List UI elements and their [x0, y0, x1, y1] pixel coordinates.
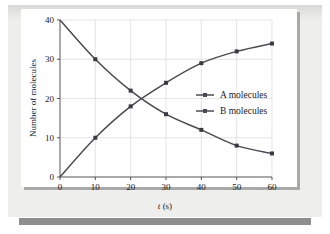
- series-2-marker: [199, 61, 203, 65]
- y-tick-label: 0: [50, 172, 55, 182]
- series-2-marker: [235, 49, 239, 53]
- x-tick-label: 50: [232, 182, 242, 192]
- x-axis-title: t (s): [158, 201, 172, 211]
- y-tick-label: 30: [45, 54, 55, 64]
- x-tick-label: 60: [268, 182, 278, 192]
- y-axis-title: Number of molecules: [28, 59, 38, 137]
- x-tick-label: 30: [162, 182, 172, 192]
- chart-legend: A moleculesB molecules: [196, 90, 268, 116]
- series-2-marker: [129, 104, 133, 108]
- series-1-marker: [129, 89, 133, 93]
- y-tick-labels: 010203040: [45, 15, 55, 182]
- series-1-marker: [93, 57, 97, 61]
- series-1-marker: [199, 128, 203, 132]
- series-1-marker: [235, 144, 239, 148]
- legend-marker-1: [203, 93, 207, 97]
- x-tick-label: 0: [58, 182, 63, 192]
- x-tick-label: 10: [91, 182, 101, 192]
- y-tick-label: 10: [45, 133, 55, 143]
- x-tick-label: 40: [197, 182, 207, 192]
- x-tick-labels: 0102030405060: [58, 182, 277, 192]
- y-tick-label: 20: [45, 94, 55, 104]
- series-1-marker: [164, 112, 168, 116]
- svg-text:Number of molecules: Number of molecules: [28, 59, 38, 137]
- svg-text:t (s): t (s): [158, 201, 172, 211]
- series-1-marker: [270, 151, 274, 155]
- legend-label-1: A molecules: [220, 90, 268, 100]
- y-tick-label: 40: [45, 15, 55, 25]
- series-2-marker: [270, 42, 274, 46]
- chart-svg: 0102030405060 010203040 t (s) Number of …: [0, 0, 330, 234]
- x-tick-label: 20: [126, 182, 136, 192]
- series-2-marker: [93, 136, 97, 140]
- series-2-marker: [164, 81, 168, 85]
- legend-label-2: B molecules: [220, 106, 268, 116]
- legend-marker-2: [203, 109, 207, 113]
- figure-container: 0102030405060 010203040 t (s) Number of …: [0, 0, 330, 234]
